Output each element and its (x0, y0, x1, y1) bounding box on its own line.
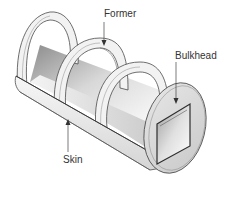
leader-skin (66, 119, 71, 152)
fuselage-diagram (0, 0, 226, 202)
label-bulkhead: Bulkhead (175, 50, 217, 61)
label-skin: Skin (63, 154, 82, 165)
label-former: Former (104, 8, 136, 19)
